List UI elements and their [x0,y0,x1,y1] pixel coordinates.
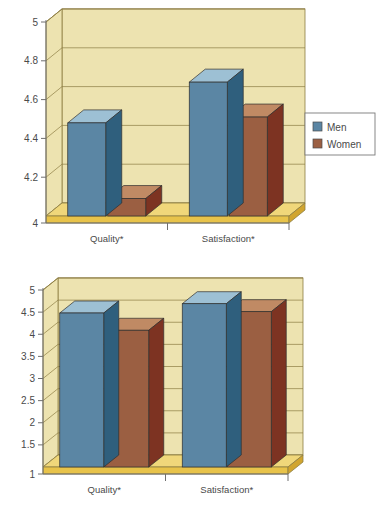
bar-men [60,301,119,467]
bar-side-face [227,69,243,216]
x-axis-category-label: Quality* [88,484,122,495]
y-axis-tick-label: 5 [32,17,38,28]
bar-front-face [182,304,226,467]
legend-label: Men [327,122,346,133]
bar-side-face [149,318,164,467]
x-axis-category-label: Satisfaction* [200,484,253,495]
y-axis-tick-label: 4.5 [21,307,35,318]
bar-side-face [267,104,283,216]
y-axis-tick-label: 1.5 [21,439,35,450]
y-axis-tick-label: 3 [29,373,35,384]
y-axis-tick-label: 2.5 [21,395,35,406]
chart-top: 44.24.44.64.85Quality*Satisfaction*MenWo… [0,0,384,262]
x-axis-category-label: Quality* [90,233,124,244]
chart-bottom: 11.522.533.544.55Quality*Satisfaction*Me… [0,262,384,525]
y-axis-tick-label: 4.6 [24,94,38,105]
chart-top-canvas: 44.24.44.64.85Quality*Satisfaction*MenWo… [0,0,384,262]
bar-side-face [271,300,286,467]
legend-swatch [313,139,322,148]
bar-side-face [104,301,119,467]
y-axis-tick-label: 4.4 [24,133,38,144]
plot-floor-front [46,216,289,223]
chart-bottom-canvas: 11.522.533.544.55Quality*Satisfaction*Me… [0,262,384,525]
plot-floor-front [43,467,288,474]
bar-men [68,110,122,216]
y-axis-tick-label: 2 [29,417,35,428]
plot-left-wall [46,9,62,216]
bar-front-face [68,123,106,216]
y-axis-tick-label: 5 [29,285,35,296]
y-axis-tick-label: 1 [29,469,35,480]
bar-side-face [226,292,241,467]
legend-swatch [313,122,322,131]
y-axis-tick-label: 4.8 [24,55,38,66]
y-axis-tick-label: 4 [32,218,38,229]
bar-front-face [189,82,227,216]
y-axis-tick-label: 3.5 [21,351,35,362]
bar-front-face [60,313,104,467]
legend-label: Women [327,139,361,150]
y-axis-tick-label: 4.2 [24,172,38,183]
bar-men [189,69,243,216]
bar-men [182,292,241,467]
bar-side-face [106,110,122,216]
x-axis-category-label: Satisfaction* [202,233,255,244]
y-axis-tick-label: 4 [29,329,35,340]
